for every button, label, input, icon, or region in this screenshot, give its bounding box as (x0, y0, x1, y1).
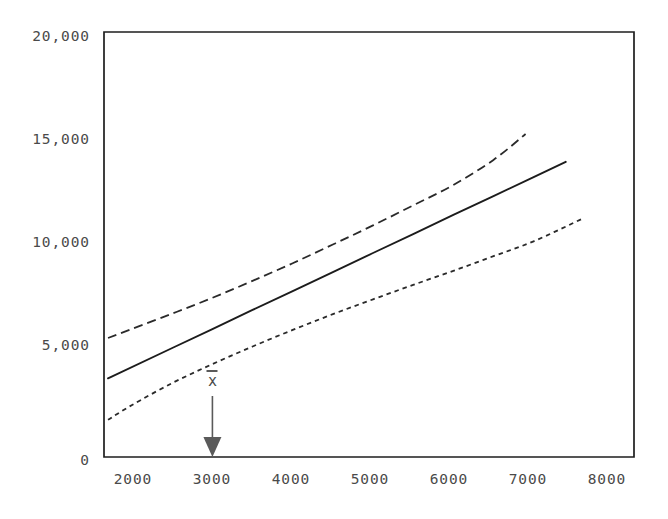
xtick-label-5000: 5000 (351, 472, 390, 487)
xtick-label-7000: 7000 (509, 472, 548, 487)
xtick-label-3000: 3000 (193, 472, 232, 487)
plot-border (104, 32, 634, 457)
regression-line (108, 162, 566, 379)
xtick-label-4000: 4000 (272, 472, 311, 487)
ytick-label-10000: 10,000 (32, 235, 90, 250)
xtick-label-6000: 6000 (430, 472, 469, 487)
mean-x-glyph: x (208, 372, 217, 390)
xtick-label-2000: 2000 (114, 472, 153, 487)
upper-confidence-band (108, 134, 526, 338)
plot-area (0, 0, 668, 519)
xtick-label-8000: 8000 (588, 472, 627, 487)
ytick-label-5000: 5,000 (42, 338, 90, 353)
series-layer (108, 134, 582, 420)
ytick-label-0: 0 (80, 453, 90, 468)
mean-x-arrow-icon (203, 396, 221, 457)
regression-confidence-band-chart: 20,000 15,000 10,000 5,000 0 2000 3000 4… (0, 0, 668, 519)
ytick-label-20000: 20,000 (32, 29, 90, 44)
axis-frame (104, 32, 634, 457)
ytick-label-15000: 15,000 (32, 132, 90, 147)
mean-x-label: x (207, 370, 218, 389)
lower-confidence-band (108, 219, 582, 420)
